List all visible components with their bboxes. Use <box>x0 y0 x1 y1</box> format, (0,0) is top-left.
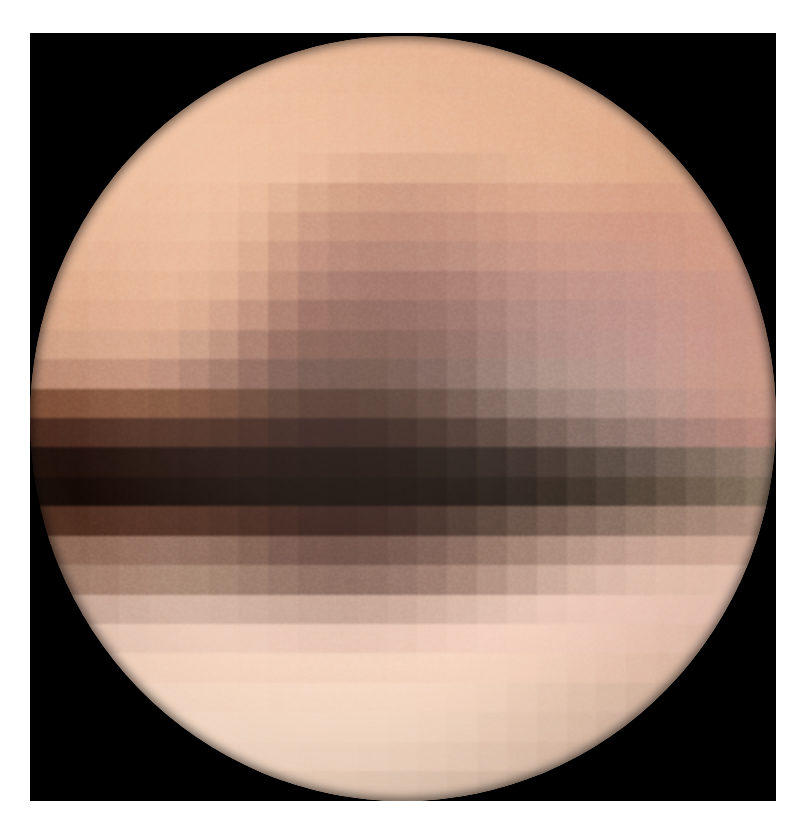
space-background <box>30 33 776 801</box>
image-canvas: Pluto surface map reconstruction <box>0 0 799 826</box>
pluto-disk <box>30 36 776 801</box>
surface-pixel-mosaic <box>30 36 776 801</box>
